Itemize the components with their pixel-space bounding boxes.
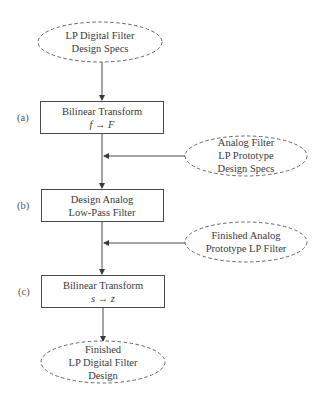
input2-line-1: Finished Analog — [211, 230, 281, 241]
step-b-subtitle: Low-Pass Filter — [69, 207, 136, 218]
step-b-title: Design Analog — [71, 194, 134, 205]
input-node-1: Analog Filter LP Prototype Design Specs — [185, 136, 307, 176]
step-c-label: (c) — [18, 286, 30, 298]
start-node: LP Digital Filter Design Specs — [38, 22, 162, 62]
step-b-label: (b) — [17, 200, 30, 212]
input1-line-3: Design Specs — [218, 163, 275, 174]
end-node: Finished LP Digital Filter Design — [41, 341, 165, 383]
step-a: (a) Bilinear Transform f → F — [17, 102, 164, 134]
input1-line-2: LP Prototype — [218, 150, 274, 161]
step-c-title: Bilinear Transform — [63, 280, 143, 291]
step-a-label: (a) — [17, 112, 29, 124]
step-b: (b) Design Analog Low-Pass Filter — [17, 190, 164, 222]
step-c-subtitle: s → z — [91, 293, 115, 304]
start-line-2: Design Specs — [72, 43, 129, 54]
end-line-3: Design — [88, 370, 118, 381]
input2-line-2: Prototype LP Filter — [206, 243, 287, 254]
filter-design-flowchart: LP Digital Filter Design Specs (a) Bilin… — [0, 0, 325, 402]
input1-line-1: Analog Filter — [218, 137, 275, 148]
step-c: (c) Bilinear Transform s → z — [18, 276, 165, 308]
start-line-1: LP Digital Filter — [65, 30, 135, 41]
end-line-1: Finished — [85, 344, 122, 355]
step-a-subtitle: f → F — [89, 119, 115, 130]
end-line-2: LP Digital Filter — [68, 357, 138, 368]
step-a-title: Bilinear Transform — [62, 106, 142, 117]
input-node-2: Finished Analog Prototype LP Filter — [185, 222, 307, 262]
